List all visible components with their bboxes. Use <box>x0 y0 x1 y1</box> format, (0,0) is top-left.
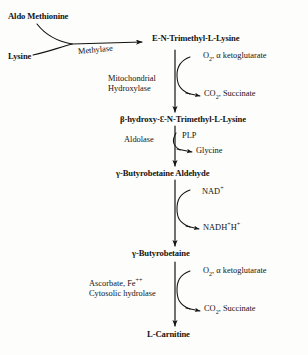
label-o2-ketoglutarate-1: O2, α ketoglutarate <box>203 51 267 62</box>
branch-dehydrogenase <box>177 190 190 227</box>
nad-base: NAD <box>202 187 220 196</box>
o2-rest-2: , α ketoglutarate <box>212 266 266 275</box>
nadh-base: NADH <box>203 223 227 232</box>
label-o2-ketoglutarate-2: O2, α ketoglutarate <box>203 266 267 277</box>
branch-aldolase <box>173 133 180 150</box>
branch-cytosolic-hydrolase <box>177 271 190 309</box>
label-enzyme-aldolase: Aldolase <box>124 135 154 144</box>
arrow-glycine-out <box>177 149 192 152</box>
nadh-superscript-2: + <box>237 221 240 227</box>
label-metabolite-trimethyl-lysine: E-N-Trimethyl-L-Lysine <box>152 34 239 44</box>
label-metabolite-beta-hydroxy-trimethyl-lysine: β-hydroxy-Ɛ-N-Trimethyl-L-Lysine <box>120 115 246 125</box>
label-enzyme-mitochondrial-hydroxylase: Mitochondrial Hydroxylase <box>108 74 156 95</box>
arrow-nadh-out <box>186 226 199 229</box>
co2-rest-2: , Succinate <box>219 304 256 313</box>
label-co2-succinate-2: CO2, Succinate <box>204 304 255 315</box>
fe-superscript: ++ <box>136 277 143 283</box>
nad-superscript: + <box>220 185 223 191</box>
label-lysine: Lysine <box>8 52 31 62</box>
label-nadh-h-plus: NADH+H+ <box>203 221 240 232</box>
label-metabolite-butyrobetaine: γ-Butyrobetaine <box>132 249 190 259</box>
ascorbate-fe: Ascorbate, Fe <box>89 279 136 288</box>
label-aldo-methionine: Aldo Methionine <box>8 12 68 22</box>
label-co2-succinate-1: CO2, Succinate <box>204 89 255 100</box>
co2-base: CO <box>204 89 216 98</box>
arrow-co2-succinate-out-1 <box>186 93 200 96</box>
arrow-lysine-input <box>33 44 72 55</box>
label-cofactor-plp: PLP <box>182 131 196 140</box>
branch-mitochondrial-hydroxylase <box>177 57 190 94</box>
hydroxylase-line-2: Hydroxylase <box>108 84 156 94</box>
hydrolase-line-2: Cytosolic hydrolase <box>89 289 156 299</box>
label-glycine: Glycine <box>196 146 223 155</box>
arrow-aldo-methionine-input <box>37 24 72 44</box>
label-metabolite-butyrobetaine-aldehyde: γ-Butyrobetaine Aldehyde <box>116 169 209 179</box>
o2-rest: , α ketoglutarate <box>212 51 266 60</box>
co2-base-2: CO <box>204 304 216 313</box>
arrow-co2-succinate-out-2 <box>186 308 200 311</box>
hydroxylase-line-1: Mitochondrial <box>108 74 156 84</box>
hydrolase-line-1: Ascorbate, Fe++ <box>89 277 156 289</box>
co2-rest: , Succinate <box>219 89 256 98</box>
label-metabolite-l-carnitine: L-Carnitine <box>147 330 190 340</box>
label-nad-plus: NAD+ <box>202 185 224 196</box>
label-enzyme-cytosolic-hydrolase: Ascorbate, Fe++ Cytosolic hydrolase <box>89 277 156 299</box>
